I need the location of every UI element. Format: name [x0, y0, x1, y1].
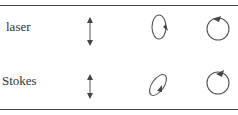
circular-polarization-icon-laser [207, 16, 229, 40]
circular-polarization-icon-stokes [207, 70, 229, 94]
elliptical-polarization-icon-stokes [146, 72, 170, 99]
polarization-diagram [0, 0, 238, 115]
elliptical-polarization-icon-laser [152, 15, 168, 39]
linear-polarization-icon-laser [87, 17, 93, 46]
linear-polarization-icon-stokes [87, 74, 93, 99]
